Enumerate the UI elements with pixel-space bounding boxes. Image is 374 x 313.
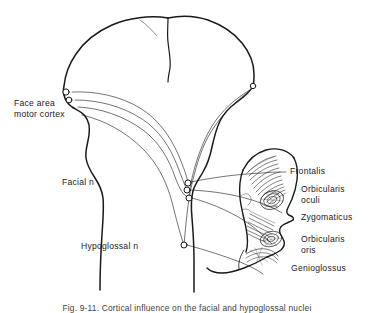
brainstem-outline [64, 86, 253, 292]
brain-outline [63, 16, 254, 95]
label-zygomaticus: Zygomaticus [301, 212, 352, 223]
facial-nucleus-lower [186, 195, 192, 201]
corticobulbar-tracts [72, 90, 250, 245]
label-facial-n: Facial n [62, 177, 94, 188]
label-orbicularis-oculi: Orbicularis oculi [301, 184, 374, 205]
label-face-area-motor-cortex: Face area motor cortex [14, 98, 88, 119]
cortical-neuron-right [250, 83, 255, 88]
label-hypoglossal-n: Hypoglossal n [81, 241, 138, 252]
label-orbicularis-oris-line2: oris [301, 245, 316, 255]
label-genioglossus: Genioglossus [291, 263, 346, 274]
label-face-area-line2: motor cortex [14, 109, 65, 119]
head-profile-outline [207, 149, 297, 273]
label-orbicularis-oris-line1: Orbicularis [301, 234, 345, 244]
label-orbicularis-oculi-line2: oculi [301, 195, 320, 205]
cortical-neuron-left-upper [63, 89, 69, 95]
genioglossus-muscle [239, 247, 278, 269]
facial-nucleus-mid [184, 187, 190, 193]
label-frontalis: Frontalis [290, 166, 325, 177]
figure-caption: Fig. 9-11. Cortical influence on the fac… [22, 303, 352, 313]
figure-page: Face area motor cortex Facial n Hypoglos… [0, 0, 374, 313]
label-face-area-line1: Face area [14, 98, 55, 108]
label-orbicularis-oculi-line1: Orbicularis [301, 184, 345, 194]
hypoglossal-nucleus [181, 242, 187, 248]
frontalis-muscle [246, 156, 286, 203]
facial-nucleus-upper [185, 180, 191, 186]
label-orbicularis-oris: Orbicularis oris [301, 234, 374, 255]
